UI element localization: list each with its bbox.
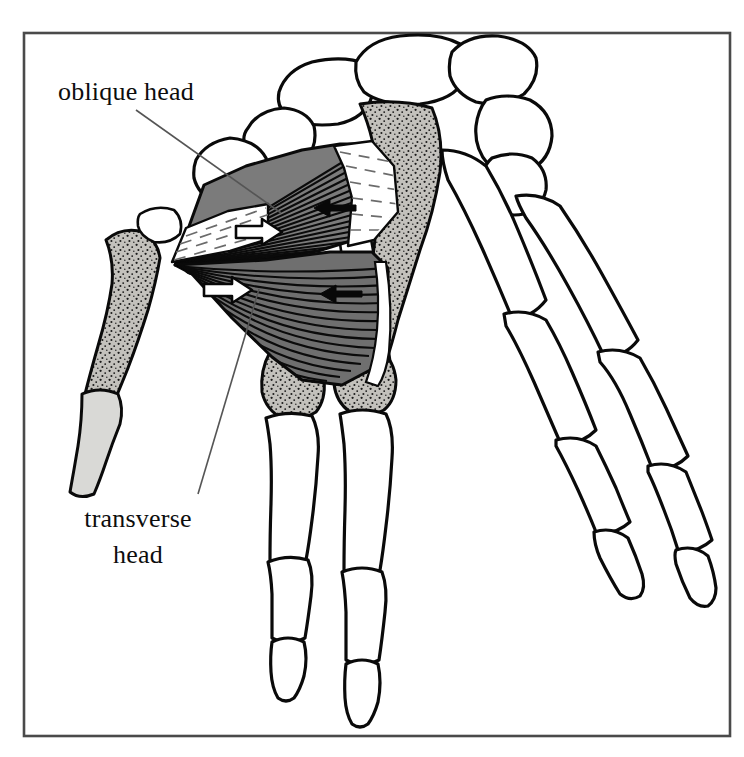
bone-index-distal-phalanx (271, 638, 306, 701)
index-finger-group (266, 413, 318, 701)
bone-little-distal-phalanx (675, 548, 716, 606)
bone-index-proximal-phalanx (266, 413, 318, 564)
bone-little-middle-phalanx (648, 464, 712, 551)
label-oblique-head: oblique head (58, 77, 194, 106)
label-transverse-head-line2: head (113, 540, 163, 569)
bone-index-middle-phalanx (268, 557, 312, 642)
bone-ring-proximal-phalanx (504, 312, 596, 443)
label-transverse-head-line1: transverse (84, 504, 191, 533)
bone-ring-middle-phalanx (556, 438, 630, 533)
leader-line-transverse-head (198, 289, 259, 494)
anatomical-figure: oblique head transverse head (0, 0, 744, 757)
bone-ring-distal-phalanx (594, 530, 644, 599)
bone-carpal-c (449, 36, 536, 104)
bone-thumb-proximal-phalanx (70, 390, 122, 497)
bone-middle-middle-phalanx (342, 568, 386, 664)
bone-middle-distal-phalanx (345, 660, 380, 727)
bone-thumb-metacarpal (84, 230, 160, 404)
hand-skeleton-diagram: oblique head transverse head (0, 0, 744, 757)
bone-middle-proximal-phalanx (340, 410, 392, 574)
middle-finger-group (340, 410, 392, 727)
bone-thumb-trapezium (138, 208, 181, 243)
bone-little-proximal-phalanx (598, 350, 688, 469)
muscle-transverse-head (175, 252, 388, 385)
